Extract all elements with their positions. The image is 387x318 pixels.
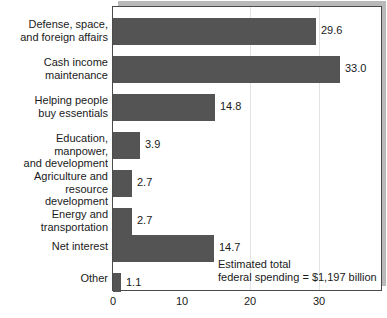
category-label-6: Net interest [52, 240, 108, 253]
bar-5 [113, 208, 132, 235]
gridline-20 [250, 7, 251, 290]
xtick-label-2: 20 [244, 296, 256, 307]
category-label-4: Agriculture and resource development [0, 170, 108, 208]
category-label-7: Other [80, 272, 108, 285]
bar-6 [113, 235, 214, 262]
category-label-2: Helping people buy essentials [35, 94, 108, 119]
bar-7 [113, 273, 121, 292]
total-spending-annotation: Estimated total federal spending = $1,19… [218, 258, 377, 284]
bar-3 [113, 132, 140, 159]
bar-value-6: 14.7 [219, 242, 240, 253]
bar-chart: Defense, space, and foreign affairs Cash… [0, 0, 387, 318]
xtick-label-1: 10 [176, 296, 188, 307]
category-label-0: Defense, space, and foreign affairs [20, 18, 108, 43]
bar-value-3: 3.9 [145, 139, 160, 150]
bar-value-5: 2.7 [137, 215, 152, 226]
bar-value-1: 33.0 [345, 63, 366, 74]
category-label-1: Cash income maintenance [44, 56, 108, 81]
bar-0 [113, 18, 316, 45]
xtick-label-0: 0 [110, 296, 116, 307]
bar-value-0: 29.6 [321, 25, 342, 36]
bar-value-2: 14.8 [220, 101, 241, 112]
bar-value-4: 2.7 [137, 177, 152, 188]
bar-1 [113, 56, 340, 83]
bar-2 [113, 94, 215, 121]
bar-value-7: 1.1 [126, 277, 141, 288]
category-label-5: Energy and transportation [41, 208, 108, 233]
bar-4 [113, 170, 132, 197]
category-label-3: Education, manpower, and development [0, 132, 108, 170]
xtick-label-3: 30 [313, 296, 325, 307]
gridline-30 [319, 7, 320, 290]
